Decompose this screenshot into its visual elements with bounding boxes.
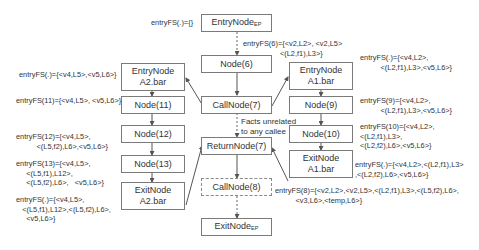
exit-node-a1-bar: ExitNode A1.bar <box>289 150 353 178</box>
entry-node-a2-line2: A2.bar <box>140 77 167 88</box>
node-11-label: Node(11) <box>135 100 172 111</box>
entry-node-a2-bar: EntryNode A2.bar <box>121 63 185 91</box>
return-node-7-label: ReturnNode(7) <box>207 141 267 152</box>
call-node-8-label: CallNode(8) <box>212 182 260 193</box>
entry-node-a1-bar: EntryNode A1.bar <box>289 62 353 90</box>
annotation-node-9: entryFS(9)={<v4,L2>, <(L2,f1),L3>,<v5,L6… <box>360 96 452 115</box>
exit-node-a2-line1: ExitNode <box>135 185 172 196</box>
node-9-label: Node(9) <box>305 100 338 111</box>
exit-node-ep-sub: EP <box>251 225 258 231</box>
node-10: Node(10) <box>289 125 353 143</box>
node-13: Node(13) <box>121 155 185 173</box>
entry-node-ep-label: EntryNode <box>212 17 255 27</box>
entry-node-ep: EntryNodeEP <box>201 14 272 32</box>
annotation-node-10: entryFS(10)={<v4,L2>, <(L2,f1),L3>, <(L2… <box>360 122 435 151</box>
return-node-7: ReturnNode(7) <box>201 137 272 155</box>
entry-node-a2-line1: EntryNode <box>132 66 175 77</box>
node-12: Node(12) <box>121 125 185 143</box>
node-10-label: Node(10) <box>302 129 340 140</box>
annotation-unrelated-facts: Facts unrelated to any callee <box>241 117 296 137</box>
exit-node-a1-line2: A1.bar <box>308 164 335 175</box>
annotation-node-11: entryFS(11)={<v4,L5>, <v5,L6>} <box>16 96 121 106</box>
annotation-node-12: entryFS(12)={<v4,L5>, <(L5,f2),L6>,<v5,L… <box>16 132 108 151</box>
call-node-7-label: CallNode(7) <box>212 100 260 111</box>
exit-node-ep-label: ExitNode <box>215 221 252 231</box>
annotation-entry-a1: entryFS(.)={<v4,L2>, <(L2,f1),L3>,<v5,L6… <box>360 53 452 72</box>
exit-node-ep: ExitNodeEP <box>201 218 272 236</box>
entry-node-a1-line2: A1.bar <box>308 76 335 87</box>
call-node-8: CallNode(8) <box>201 178 272 196</box>
exit-node-a1-line1: ExitNode <box>303 153 340 164</box>
call-node-7: CallNode(7) <box>201 96 272 114</box>
exit-node-a2-bar: ExitNode A2.bar <box>121 182 185 210</box>
entry-node-ep-sub: EP <box>254 21 261 27</box>
node-6-label: Node(6) <box>220 59 253 70</box>
annotation-call-node-8: entryFS(8)={<v2,L2>,<v2,L5>,<(L2,f1),L3>… <box>275 186 459 205</box>
annotation-node-13: entryFS(13)={<v4,L5>, <(L5,f1),L12>, <(L… <box>16 159 104 188</box>
annotation-exit-a1: entryFS(.)={<v4,L2>,<(L2,f1),L3> ,<(L2,f… <box>355 160 464 179</box>
node-12-label: Node(12) <box>134 129 172 140</box>
node-13-label: Node(13) <box>134 159 172 170</box>
annotation-node-6: entryFS(6)={<v2,L2>, <v2,L5> <(L2,f1),L3… <box>243 39 342 58</box>
entry-node-a1-line1: EntryNode <box>300 65 343 76</box>
exit-node-a2-line2: A2.bar <box>140 196 167 207</box>
node-11: Node(11) <box>121 96 185 114</box>
annotation-entry-ep: entryFS(.)={} <box>151 18 193 28</box>
node-9: Node(9) <box>289 96 353 114</box>
annotation-entry-a2: entryFS(.)={<v4,L5>,<v5,L6>} <box>19 70 117 80</box>
annotation-exit-a2: entryFS(.)={<v4,L5>, <(L5,f1),L12>,<(L5,… <box>16 195 111 224</box>
